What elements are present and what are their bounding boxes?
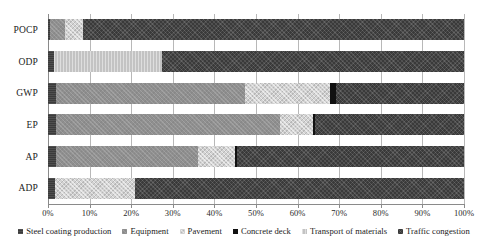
legend-item[interactable]: Equipment bbox=[122, 226, 168, 236]
legend-swatch-icon bbox=[18, 229, 23, 234]
legend-swatch-icon bbox=[122, 229, 127, 234]
bar-segment bbox=[56, 146, 197, 167]
bar-segment bbox=[56, 83, 245, 104]
plot-area bbox=[48, 14, 464, 204]
legend-label: Steel coating production bbox=[26, 226, 111, 236]
legend-label: Traffic congestion bbox=[406, 226, 470, 236]
bar-segment bbox=[50, 19, 65, 40]
x-axis-tick-label: 50% bbox=[248, 208, 264, 218]
gridline bbox=[214, 14, 215, 204]
legend-label: Concrete deck bbox=[241, 226, 291, 236]
gridline bbox=[339, 14, 340, 204]
bar-segment bbox=[54, 51, 162, 72]
stacked-bar-chart: POCPODPGWPEPAPADP 0%10%20%30%40%50%60%70… bbox=[0, 0, 488, 246]
gridline bbox=[422, 14, 423, 204]
chart-legend: Steel coating productionEquipmentPavemen… bbox=[0, 226, 488, 236]
legend-label: Transport of materials bbox=[310, 226, 387, 236]
bar-segment bbox=[198, 146, 235, 167]
bar-row bbox=[48, 178, 464, 199]
x-axis-tick-label: 80% bbox=[373, 208, 389, 218]
bar-segment bbox=[336, 83, 464, 104]
legend-item[interactable]: Steel coating production bbox=[18, 226, 111, 236]
bar-row bbox=[48, 114, 464, 135]
bar-row bbox=[48, 83, 464, 104]
x-axis-tick-label: 60% bbox=[290, 208, 306, 218]
gridline bbox=[173, 14, 174, 204]
bar-segment bbox=[48, 83, 56, 104]
bar-row bbox=[48, 51, 464, 72]
legend-swatch-icon bbox=[233, 229, 238, 234]
bar-row bbox=[48, 146, 464, 167]
legend-swatch-icon bbox=[180, 229, 185, 234]
legend-label: Pavement bbox=[188, 226, 222, 236]
x-axis-tick-label: 0% bbox=[42, 208, 54, 218]
gridline bbox=[298, 14, 299, 204]
x-axis-tick-label: 30% bbox=[165, 208, 181, 218]
legend-label: Equipment bbox=[130, 226, 168, 236]
gridline bbox=[256, 14, 257, 204]
bar-segment bbox=[135, 178, 464, 199]
bar-segment bbox=[280, 114, 313, 135]
gridline bbox=[131, 14, 132, 204]
gridline bbox=[381, 14, 382, 204]
bar-segment bbox=[48, 178, 55, 199]
bar-segment bbox=[315, 114, 464, 135]
y-axis-labels: POCPODPGWPEPAPADP bbox=[0, 14, 44, 204]
gridline bbox=[48, 14, 49, 204]
bar-segment bbox=[48, 146, 56, 167]
bar-segment bbox=[83, 19, 464, 40]
bar-segment bbox=[237, 146, 464, 167]
x-axis-tick-label: 40% bbox=[206, 208, 222, 218]
bar-segment bbox=[56, 114, 280, 135]
legend-item[interactable]: Traffic congestion bbox=[398, 226, 470, 236]
gridline bbox=[464, 14, 465, 204]
legend-item[interactable]: Concrete deck bbox=[233, 226, 291, 236]
bar-segment bbox=[65, 19, 83, 40]
x-axis-tick-label: 20% bbox=[123, 208, 139, 218]
legend-swatch-icon bbox=[302, 229, 307, 234]
bar-segment bbox=[245, 83, 330, 104]
bar-row bbox=[48, 19, 464, 40]
x-axis-tick-label: 100% bbox=[454, 208, 474, 218]
x-axis-tick-label: 10% bbox=[82, 208, 98, 218]
x-axis-tick-label: 70% bbox=[331, 208, 347, 218]
bar-segment bbox=[55, 178, 135, 199]
bar-segment bbox=[48, 114, 56, 135]
x-axis-tick-label: 90% bbox=[414, 208, 430, 218]
legend-swatch-icon bbox=[398, 229, 403, 234]
legend-item[interactable]: Transport of materials bbox=[302, 226, 387, 236]
gridline bbox=[90, 14, 91, 204]
bar-segment bbox=[162, 51, 464, 72]
legend-item[interactable]: Pavement bbox=[180, 226, 222, 236]
